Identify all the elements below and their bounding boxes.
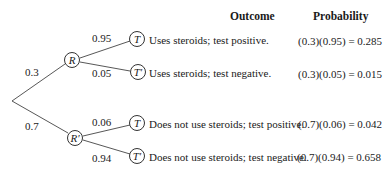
probability-4: (0.7)(0.94) = 0.658 xyxy=(297,151,381,163)
node-r-t-prime: T′ xyxy=(130,64,146,80)
outcome-1: Uses steroids; test positive. xyxy=(149,34,269,46)
tree-edges xyxy=(0,0,390,172)
branch-prob-r-t-prime: 0.05 xyxy=(92,67,111,79)
branch-prob-r-t: 0.95 xyxy=(92,32,111,44)
outcome-3: Does not use steroids; test positive. xyxy=(149,118,304,130)
outcome-header: Outcome xyxy=(230,10,275,23)
node-r-t: T xyxy=(129,31,145,47)
probability-3: (0.7)(0.06) = 0.042 xyxy=(298,118,382,130)
branch-prob-rp-t-prime: 0.94 xyxy=(92,152,111,164)
node-r: R xyxy=(64,52,80,68)
node-rp-t: T xyxy=(129,115,145,131)
probability-1: (0.3)(0.95) = 0.285 xyxy=(298,35,382,47)
probability-header: Probability xyxy=(313,10,368,23)
node-r-prime: R′ xyxy=(67,130,83,146)
probability-2: (0.3)(0.05) = 0.015 xyxy=(298,68,382,80)
outcome-4: Does not use steroids; test negative. xyxy=(149,151,307,163)
branch-prob-r: 0.3 xyxy=(25,66,39,78)
outcome-2: Uses steroids; test negative. xyxy=(149,67,271,79)
branch-prob-rp-t: 0.06 xyxy=(92,116,111,128)
node-rp-t-prime: T′ xyxy=(129,148,145,164)
branch-prob-r-prime: 0.7 xyxy=(25,120,39,132)
